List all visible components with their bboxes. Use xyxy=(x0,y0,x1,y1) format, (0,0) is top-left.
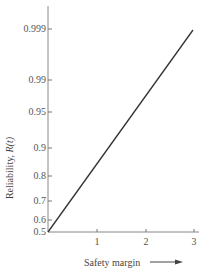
x-tick-label: 2 xyxy=(144,236,149,247)
y-tick-label: 0.9 xyxy=(34,142,47,153)
y-tick-label: 0.7 xyxy=(34,195,47,206)
x-tick-label: 3 xyxy=(192,236,197,247)
y-axis-label: Reliability, R(t) xyxy=(4,136,16,199)
y-tick-label: 0.95 xyxy=(29,106,47,117)
x-axis-label: Safety margin xyxy=(84,257,140,268)
arrow-right-icon xyxy=(150,260,183,265)
y-tick-label: 0.99 xyxy=(29,74,47,85)
reliability-chart: 0.999 0.99 0.95 0.9 0.8 0.7 0.6 0.5 1 2 … xyxy=(0,0,209,272)
reliability-line xyxy=(48,30,193,232)
y-tick-label: 0.6 xyxy=(34,214,47,225)
x-tick-label: 1 xyxy=(95,236,100,247)
y-tick-label: 0.5 xyxy=(34,226,47,237)
y-tick-label: 0.999 xyxy=(24,23,47,34)
y-tick-label: 0.8 xyxy=(34,170,47,181)
